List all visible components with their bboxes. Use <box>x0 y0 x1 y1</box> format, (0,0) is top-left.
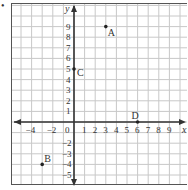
x-tick-label: 8 <box>156 125 161 135</box>
y-tick-label: 7 <box>66 43 71 53</box>
y-tick-label: −2 <box>62 138 72 148</box>
y-tick-label: 2 <box>66 96 71 106</box>
y-tick-label: 8 <box>66 32 71 42</box>
grid-frame <box>12 4 188 185</box>
point-label-c: C <box>77 67 84 78</box>
axes <box>14 5 186 186</box>
x-tick-label: 2 <box>93 125 98 135</box>
y-tick-label: 4 <box>66 75 71 85</box>
point-label-b: B <box>44 153 51 164</box>
x-arrow-left-icon <box>14 119 21 125</box>
y-tick-label: −5 <box>62 170 72 180</box>
y-tick-label: 1 <box>66 106 71 116</box>
x-tick-label: −2 <box>47 125 57 135</box>
y-tick-label: 6 <box>66 53 71 63</box>
y-tick-label: 3 <box>66 85 71 95</box>
x-tick-label: 5 <box>125 125 130 135</box>
origin-label: 0 <box>65 125 70 135</box>
x-axis-label: x <box>181 124 187 135</box>
x-tick-label: 4 <box>114 125 119 135</box>
point-label-a: A <box>108 27 116 38</box>
point-c <box>72 67 76 71</box>
grid-lines <box>12 4 188 185</box>
x-tick-label: −4 <box>26 125 36 135</box>
y-tick-label: −3 <box>62 149 72 159</box>
y-arrow-up-icon <box>71 5 77 12</box>
y-tick-label: −4 <box>62 159 72 169</box>
x-tick-label: 6 <box>135 125 140 135</box>
points: ABCD <box>40 25 139 166</box>
x-tick-label: 7 <box>146 125 151 135</box>
x-tick-label: 3 <box>103 125 108 135</box>
coordinate-plane: yx0−4−2123456789987654321−2−3−4−5 ABCD <box>0 0 187 190</box>
point-label-d: D <box>132 110 139 121</box>
x-tick-label: 9 <box>167 125 172 135</box>
y-tick-label: 9 <box>66 22 71 32</box>
y-axis-label: y <box>64 3 70 14</box>
y-tick-label: 5 <box>66 64 71 74</box>
x-tick-label: 1 <box>82 125 87 135</box>
